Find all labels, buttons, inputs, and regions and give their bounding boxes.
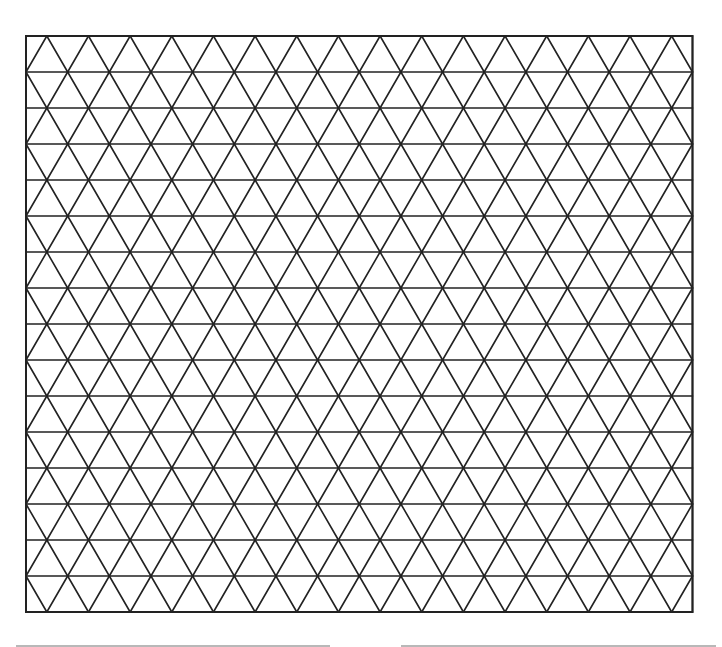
- triangle-grid: [0, 0, 722, 647]
